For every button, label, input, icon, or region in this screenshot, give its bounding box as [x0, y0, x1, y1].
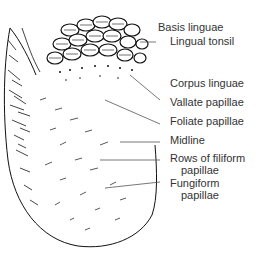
label-corpus-linguae: Corpus linguae	[170, 77, 244, 89]
label-lingual-tonsil: Lingual tonsil	[170, 35, 234, 47]
label-fungiform-papillae: papillae	[181, 189, 219, 201]
label-vallate-papillae: Vallate papillae	[170, 96, 244, 108]
label-rows-papillae: papillae	[181, 164, 219, 176]
label-foliate-papillae: Foliate papillae	[170, 115, 244, 127]
label-rows-of-filiform: Rows of filiform	[170, 152, 245, 164]
label-midline: Midline	[170, 134, 205, 146]
lingual-tonsil	[47, 16, 148, 64]
tongue-outline	[4, 28, 156, 247]
leader-lines	[100, 42, 160, 188]
label-basis-linguae: Basis linguae	[158, 21, 223, 33]
label-fungiform: Fungiform	[170, 177, 220, 189]
